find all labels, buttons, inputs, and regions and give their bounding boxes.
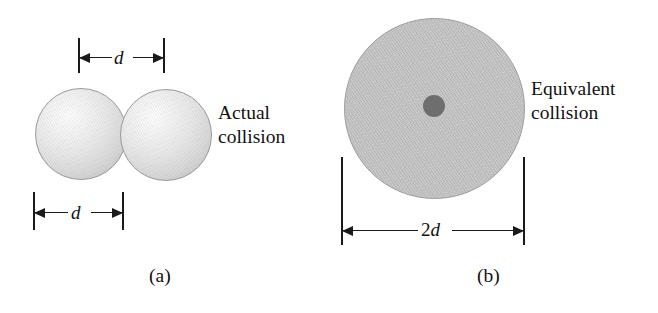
panel-caption-b: (b) <box>477 265 500 287</box>
diameter-dimension-line-left <box>343 230 418 231</box>
diameter-label-coefficient: 2 <box>421 219 431 240</box>
annotation-equivalent-line2: collision <box>531 101 615 125</box>
annotation-equivalent-line1: Equivalent <box>531 77 615 101</box>
diameter-label-symbol: d <box>431 219 441 240</box>
diameter-dimension-arrowhead-right <box>513 226 524 236</box>
diameter-dimension-arrowhead-left <box>342 226 353 236</box>
panel-b-canvas: 2d Equivalent collision (b) <box>0 0 658 313</box>
diameter-dimension-label: 2d <box>421 220 440 239</box>
panel-equivalent-collision: 2d Equivalent collision (b) <box>330 0 658 313</box>
annotation-equivalent-collision: Equivalent collision <box>531 77 615 125</box>
point-particle-dot <box>423 95 445 117</box>
collision-cross-section-figure: d d Actual collision (a) <box>0 0 658 313</box>
